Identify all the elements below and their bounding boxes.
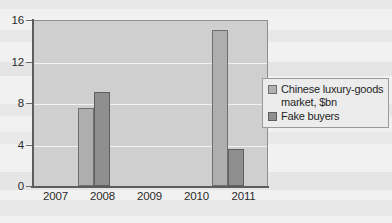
- x-axis-label-2011: 2011: [220, 190, 267, 202]
- bar-2008-fake-buyers: [94, 92, 110, 186]
- x-axis-label-2010: 2010: [173, 190, 220, 202]
- y-axis-labels: 16 12 8 4 0: [0, 0, 24, 223]
- y-axis-line: [32, 19, 34, 187]
- plot-area: [32, 20, 268, 186]
- y-axis-label-16: 16: [2, 14, 24, 26]
- y-axis-label-8: 8: [2, 97, 24, 109]
- square-swatch-icon: [268, 85, 277, 94]
- y-axis-label-4: 4: [2, 139, 24, 151]
- x-axis-label-2009: 2009: [126, 190, 173, 202]
- legend-item-label: Fake buyers: [281, 110, 339, 123]
- legend-item-chinese-luxury-goods-market[interactable]: Chinese luxury-goods market, $bn: [268, 83, 384, 108]
- x-axis-label-2007: 2007: [32, 190, 79, 202]
- square-swatch-icon: [268, 112, 277, 121]
- bar-2008-chinese-luxury-goods-market: [78, 108, 94, 186]
- bar-2011-chinese-luxury-goods-market: [212, 30, 228, 186]
- legend-item-label: Chinese luxury-goods market, $bn: [281, 83, 384, 108]
- y-axis-label-0: 0: [2, 180, 24, 192]
- x-axis-label-2008: 2008: [79, 190, 126, 202]
- chart-legend: Chinese luxury-goods market, $bn Fake bu…: [262, 78, 389, 128]
- legend-item-fake-buyers[interactable]: Fake buyers: [268, 110, 384, 123]
- bar-chart: 16 12 8 4 0 2007 2008 2009 2010 2011: [0, 0, 392, 223]
- bar-2011-fake-buyers: [228, 149, 244, 186]
- bars-layer: [32, 21, 267, 186]
- x-axis-line: [31, 186, 269, 188]
- y-axis-label-12: 12: [2, 56, 24, 68]
- x-axis-labels: 2007 2008 2009 2010 2011: [32, 190, 268, 210]
